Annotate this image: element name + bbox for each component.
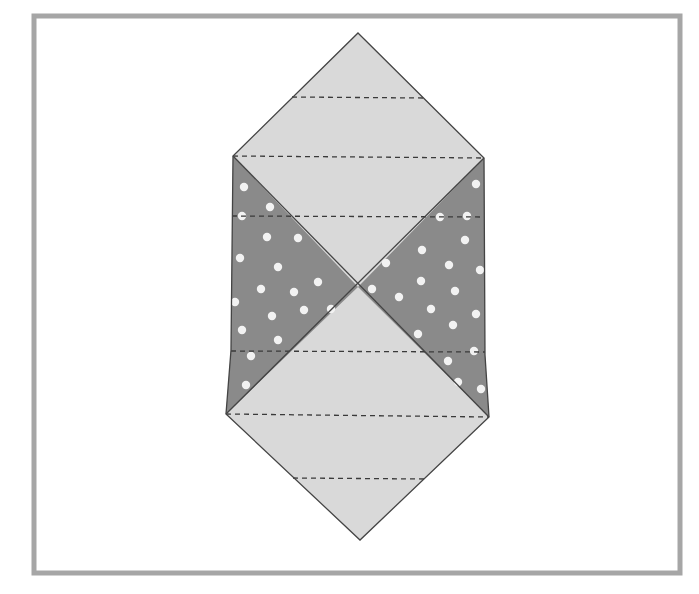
dot: [414, 330, 422, 338]
dot: [449, 321, 457, 329]
dot: [314, 278, 322, 286]
dot: [236, 254, 244, 262]
dot: [257, 285, 265, 293]
dot: [461, 236, 469, 244]
dot: [418, 246, 426, 254]
dot: [294, 234, 302, 242]
dot: [263, 233, 271, 241]
dot: [444, 357, 452, 365]
dot: [274, 263, 282, 271]
dot: [242, 381, 250, 389]
dot: [247, 352, 255, 360]
dot: [451, 287, 459, 295]
dot: [463, 212, 471, 220]
dot: [238, 326, 246, 334]
dot: [476, 266, 484, 274]
dot: [382, 259, 390, 267]
dot: [274, 336, 282, 344]
dot: [268, 312, 276, 320]
dot: [395, 293, 403, 301]
dot: [368, 285, 376, 293]
dot: [472, 310, 480, 318]
fold-diagram: [0, 0, 699, 594]
dot: [470, 347, 478, 355]
dot: [300, 306, 308, 314]
dot: [290, 288, 298, 296]
paper-net: [226, 33, 489, 540]
dot: [240, 183, 248, 191]
dot: [472, 180, 480, 188]
dot: [477, 385, 485, 393]
dot: [266, 203, 274, 211]
dot: [417, 277, 425, 285]
dot: [427, 305, 435, 313]
dot: [445, 261, 453, 269]
